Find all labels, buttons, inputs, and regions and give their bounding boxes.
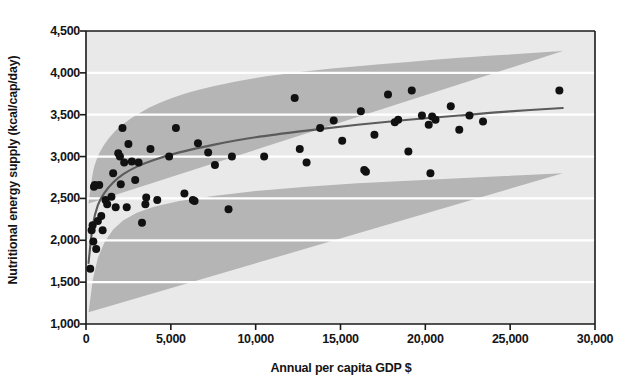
x-axis-tick-label: 25,000 [492,332,528,346]
data-point [123,203,131,211]
data-point [117,180,125,188]
data-point [92,245,100,253]
data-point [425,121,433,129]
data-point [89,238,97,246]
data-point [316,124,324,132]
data-point [146,145,154,153]
data-point [426,169,434,177]
data-point [555,86,563,94]
data-point [370,131,378,139]
data-point [455,126,463,134]
data-point [191,197,199,205]
data-point [479,117,487,125]
data-point [394,116,402,124]
data-point [228,153,236,161]
x-axis-tick-label: 20,000 [407,332,443,346]
x-axis-tick-label: 30,000 [577,332,613,346]
data-point [135,158,143,166]
data-point [99,226,107,234]
data-point [291,94,299,102]
x-axis-ticks [86,324,595,330]
data-point [95,181,103,189]
data-point [384,91,392,99]
data-point [112,203,120,211]
data-point [296,145,304,153]
x-axis-title-container: Annual per capita GDP $ [86,358,596,376]
data-point [357,107,365,115]
data-point [465,112,473,120]
data-point [330,117,338,125]
data-point [124,140,132,148]
x-axis-title: Annual per capita GDP $ [270,361,411,375]
data-point [103,200,111,208]
plot-area [0,0,628,391]
data-point [260,153,268,161]
data-point [118,124,126,132]
data-point [109,169,117,177]
data-point [404,148,412,156]
data-point [180,189,188,197]
data-point [211,161,219,169]
data-point [194,139,202,147]
data-point [153,196,161,204]
data-point [107,193,115,201]
data-point [86,265,94,273]
data-point [165,153,173,161]
data-point [408,86,416,94]
data-point [418,112,426,120]
data-point [131,176,139,184]
data-point [204,148,212,156]
data-point [303,158,311,166]
x-axis-tick-label: 15,000 [322,332,358,346]
x-axis-tick-label: 0 [83,332,90,346]
data-point [97,212,105,220]
scatter-chart: Nutritional energy supply (kcal/cap/day)… [0,0,628,391]
data-point [138,219,146,227]
x-axis-tick-label: 5,000 [156,332,186,346]
data-point [338,137,346,145]
data-point [120,158,128,166]
data-point [172,124,180,132]
data-point [225,205,233,213]
x-axis-tick-label: 10,000 [237,332,273,346]
data-point [432,116,440,124]
y-axis-ticks [80,31,86,324]
data-point [447,102,455,110]
data-point [362,168,370,176]
data-point [142,194,150,202]
data-point [128,158,136,166]
